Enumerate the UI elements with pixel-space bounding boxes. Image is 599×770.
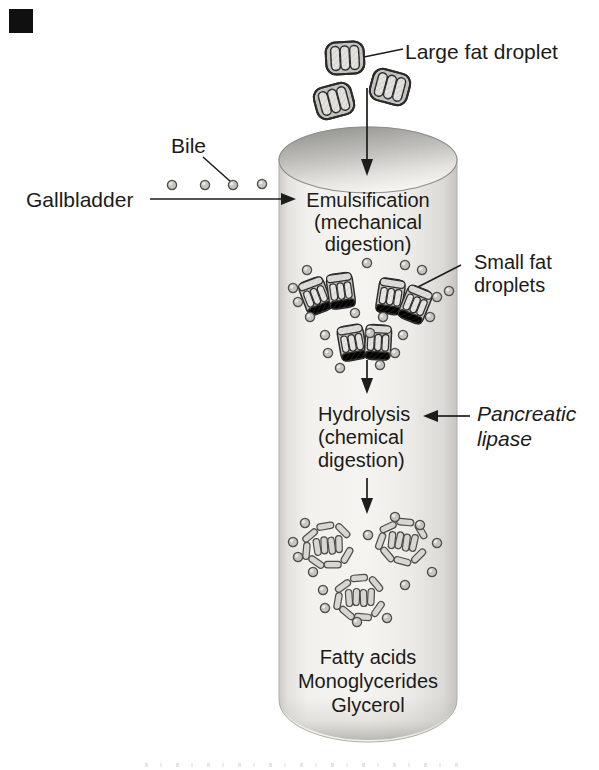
- large-fat-droplet-icon: [312, 81, 357, 122]
- small-fat-line1: Small fat: [474, 251, 552, 274]
- bile-label: Bile: [171, 134, 206, 157]
- small-fat-line2: droplets: [474, 274, 552, 297]
- emulsification-line2: (mechanical: [279, 211, 457, 233]
- pancreatic-line1: Pancreatic: [477, 401, 576, 426]
- products-line1: Fatty acids: [279, 645, 457, 669]
- large-fat-droplet-icon: [325, 41, 365, 75]
- fat-digestion-figure: Large fat droplet Bile Gallbladder Emuls…: [0, 0, 599, 770]
- pancreatic-lipase-label: Pancreatic lipase: [477, 401, 576, 451]
- gallbladder-label: Gallbladder: [26, 188, 133, 211]
- products-line2: Monoglycerides: [279, 669, 457, 693]
- emulsification-line3: digestion): [279, 233, 457, 255]
- products-label: Fatty acids Monoglycerides Glycerol: [279, 645, 457, 717]
- bile-pointer-line: [203, 157, 231, 182]
- products-line3: Glycerol: [279, 693, 457, 717]
- pancreatic-line2: lipase: [477, 426, 576, 451]
- large-fat-droplet-label: Large fat droplet: [405, 40, 558, 63]
- emulsification-label: Emulsification (mechanical digestion): [279, 189, 457, 255]
- large-fat-droplets: [312, 41, 413, 121]
- large-fat-droplet-pointer-line: [364, 49, 403, 57]
- emulsification-line1: Emulsification: [279, 189, 457, 211]
- hydrolysis-line1: Hydrolysis: [318, 403, 410, 426]
- bile-salt-trail: [167, 179, 266, 189]
- bile-dot: [200, 180, 209, 189]
- arrow-gallbladder-to-emulsification: [150, 193, 296, 205]
- small-fat-droplets-label: Small fat droplets: [474, 251, 552, 297]
- hydrolysis-line2: (chemical: [318, 426, 410, 449]
- bile-dot: [228, 180, 237, 189]
- bile-dot: [167, 180, 176, 189]
- cropped-caption-remnant: [145, 763, 460, 767]
- bile-dot: [257, 179, 266, 188]
- hydrolysis-line3: digestion): [318, 449, 410, 472]
- hydrolysis-label: Hydrolysis (chemical digestion): [318, 403, 410, 472]
- large-fat-droplet-icon: [368, 67, 413, 108]
